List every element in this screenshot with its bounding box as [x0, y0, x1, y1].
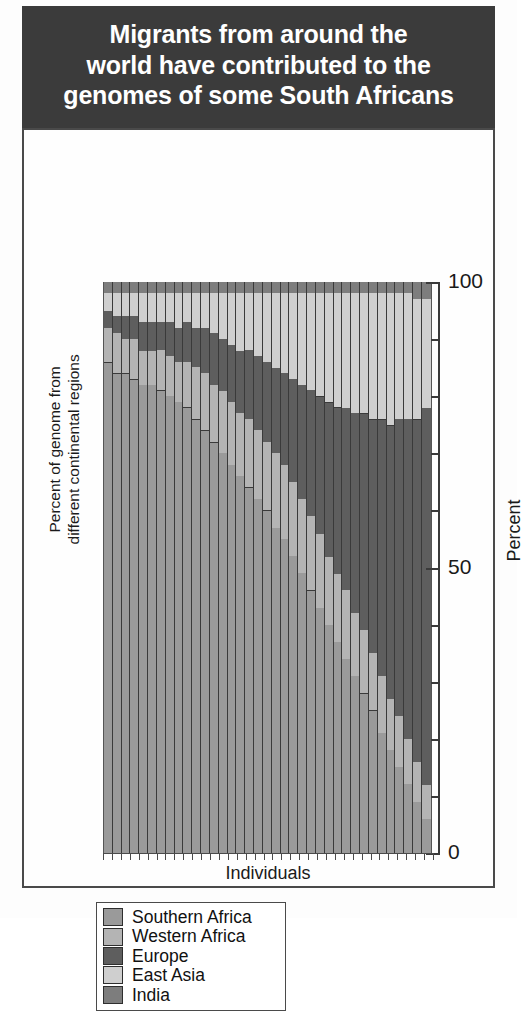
y-axis-right-label: Percent — [504, 471, 525, 591]
bar-segment — [334, 642, 342, 853]
bar-segment — [298, 499, 306, 573]
bar-segment — [413, 282, 421, 299]
x-axis-tick — [272, 853, 273, 860]
bar-segment — [219, 282, 227, 293]
bar-segment — [219, 293, 227, 339]
bar-segment — [104, 328, 112, 362]
bar-segment — [422, 282, 431, 299]
bar-segment — [325, 282, 333, 293]
bar-segment — [228, 293, 236, 344]
bar-segment — [387, 293, 395, 424]
x-axis-tick — [344, 853, 345, 860]
title-line-1: Migrants from around the — [63, 19, 453, 50]
bar-segment — [351, 282, 359, 293]
y-axis-minor-tick — [431, 396, 440, 398]
bar-individual — [316, 282, 325, 853]
bar-segment — [334, 471, 342, 573]
x-axis-tick — [388, 853, 389, 860]
legend-label-western-africa: Western Africa — [132, 927, 245, 945]
bar-segment — [395, 419, 403, 716]
x-axis-tick — [317, 853, 318, 860]
legend-item-western-africa: Western Africa — [103, 927, 279, 945]
bar-segment — [157, 567, 165, 853]
legend-item-southern-africa: Southern Africa — [103, 908, 279, 926]
bar-segment — [263, 442, 271, 510]
bar-segment — [369, 765, 377, 853]
bar-segment — [157, 350, 165, 390]
bar-segment — [272, 293, 280, 367]
bar-segment — [130, 560, 138, 853]
bar-segment — [334, 407, 342, 471]
x-axis-tick — [246, 853, 247, 860]
bar-segment — [307, 690, 315, 853]
bar-segment — [351, 676, 359, 853]
bar-segment — [157, 322, 165, 351]
bar-segment — [360, 293, 368, 413]
bar-individual — [334, 282, 343, 853]
x-axis-tick — [165, 853, 166, 860]
y-axis-left-label: Percent of genome from different contine… — [45, 299, 84, 599]
title-line-3: genomes of some South Africans — [63, 80, 453, 111]
bar-segment — [219, 391, 227, 454]
bar-segment — [395, 716, 403, 767]
bar-segment — [192, 328, 200, 368]
bar-segment — [387, 699, 395, 750]
legend-swatch-europe — [103, 947, 123, 965]
bar-individual — [210, 282, 219, 853]
bar-segment — [307, 282, 315, 293]
bar-segment — [236, 293, 244, 350]
bar-segment — [201, 373, 209, 430]
x-axis-tick — [139, 853, 140, 860]
x-axis-tick — [415, 853, 416, 860]
bar-individual — [122, 282, 131, 853]
bar-segment — [325, 293, 333, 401]
bar-segment — [183, 577, 191, 853]
x-axis-tick — [103, 853, 104, 860]
bar-individual — [387, 282, 396, 853]
bar-segment — [148, 282, 156, 293]
x-axis-tick — [326, 853, 327, 860]
bar-segment — [122, 282, 130, 293]
bar-segment — [360, 693, 368, 755]
x-axis-tick — [192, 853, 193, 860]
bar-segment — [387, 529, 395, 699]
bar-segment — [263, 293, 271, 361]
bar-segment — [201, 282, 209, 293]
bar-individual — [289, 282, 298, 853]
bar-segment — [272, 282, 280, 293]
bar-segment — [316, 608, 324, 853]
bar-segment — [254, 293, 262, 356]
bar-segment — [413, 550, 421, 762]
bar-segment — [351, 613, 359, 676]
bar-segment — [307, 293, 315, 390]
bar-segment — [369, 419, 377, 509]
bar-segment — [281, 293, 289, 373]
bar-segment — [360, 496, 368, 630]
bar-segment — [395, 767, 403, 853]
bar-segment — [245, 627, 253, 853]
x-axis-tick — [112, 853, 113, 860]
x-axis-label: Individuals — [103, 863, 433, 884]
bar-segment — [139, 351, 147, 385]
bar-segment — [422, 299, 431, 407]
x-axis-tick — [264, 853, 265, 860]
bar-segment — [316, 449, 324, 534]
bar-segment — [139, 282, 147, 293]
x-axis-tick — [255, 853, 256, 860]
x-axis-tick — [433, 853, 434, 860]
bar-segment — [113, 333, 121, 373]
bar-segment — [157, 390, 165, 566]
bar-segment — [298, 385, 306, 499]
bar-individual — [413, 282, 422, 853]
bar-segment — [113, 282, 121, 293]
bar-segment — [192, 419, 200, 585]
bar-individual — [298, 282, 307, 853]
bar-segment — [166, 293, 174, 322]
bar-segment — [272, 368, 280, 454]
bar-segment — [104, 311, 112, 328]
y-axis-tick-label: 50 — [448, 555, 471, 579]
x-axis-tick — [397, 853, 398, 860]
bar-segment — [369, 710, 377, 765]
bar-segment — [369, 282, 377, 293]
